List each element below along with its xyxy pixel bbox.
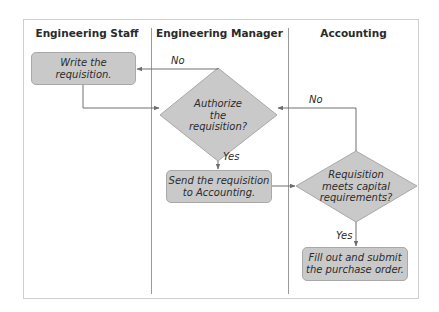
edge-label-authorize-yes: Yes <box>223 151 239 162</box>
process-write-requisition: Write the requisition. <box>31 52 136 85</box>
decision-capital-line-2: meets capital <box>306 181 406 193</box>
decision-capital-line-3: requirements? <box>306 192 406 204</box>
decision-capital-text: Requisition meets capital requirements? <box>306 169 406 204</box>
process-send-line-2: to Accounting. <box>183 187 255 199</box>
decision-authorize-line-1: Authorize <box>170 98 266 110</box>
edge-write-to-authorize <box>83 85 159 108</box>
edge-capital-no-to-authorize <box>278 108 356 151</box>
process-send-requisition: Send the requisition to Accounting. <box>166 170 272 203</box>
edge-label-capital-yes: Yes <box>336 230 352 241</box>
edge-authorize-no-to-write <box>137 68 218 69</box>
decision-authorize-line-3: requisition? <box>170 121 266 133</box>
process-fill-purchase-order: Fill out and submit the purchase order. <box>302 247 408 281</box>
decision-capital-line-1: Requisition <box>306 169 406 181</box>
process-send-line-1: Send the requisition <box>169 175 270 187</box>
decision-authorize-text: Authorize the requisition? <box>170 98 266 133</box>
edge-label-capital-no: No <box>309 94 323 105</box>
process-write-requisition-text: Write the requisition. <box>32 57 135 81</box>
process-fill-line-1: Fill out and submit <box>308 252 401 264</box>
edge-label-authorize-no: No <box>171 55 185 66</box>
process-fill-line-2: the purchase order. <box>306 264 404 276</box>
flowchart-canvas: Engineering Staff Engineering Manager Ac… <box>0 0 439 312</box>
decision-authorize-line-2: the <box>170 110 266 122</box>
